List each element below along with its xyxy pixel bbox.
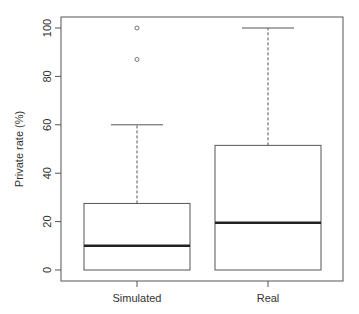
boxes [84, 26, 321, 270]
box-real [215, 28, 321, 270]
outlier-point [135, 57, 139, 61]
y-tick-label: 40 [41, 167, 53, 179]
y-tick-label: 60 [41, 119, 53, 131]
iqr-box [84, 203, 190, 270]
box-simulated [84, 26, 190, 270]
x-axis: SimulatedReal [113, 281, 280, 304]
outlier-point [135, 26, 139, 30]
y-axis: 020406080100 [41, 19, 61, 273]
y-tick-label: 0 [41, 267, 53, 273]
x-tick-label-real: Real [257, 292, 280, 304]
y-tick-label: 20 [41, 215, 53, 227]
boxplot-chart: 020406080100 SimulatedReal Private rate … [0, 0, 359, 314]
y-axis-label: Private rate (%) [13, 111, 25, 187]
x-tick-label-simulated: Simulated [113, 292, 162, 304]
y-tick-label: 100 [41, 19, 53, 37]
iqr-box [215, 145, 321, 270]
y-tick-label: 80 [41, 70, 53, 82]
